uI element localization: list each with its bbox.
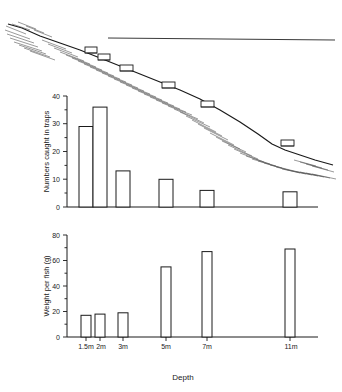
trap-markers bbox=[85, 47, 294, 146]
bar-1.5m bbox=[79, 127, 93, 208]
chart2-ytick-label: 40 bbox=[52, 283, 60, 290]
chart1-ytick-label: 0 bbox=[56, 204, 60, 211]
bar-3m bbox=[118, 313, 128, 337]
chart1-y-axis-title: Numbers caught in traps bbox=[42, 110, 51, 192]
trap-marker bbox=[85, 47, 97, 53]
trap-marker bbox=[98, 54, 110, 60]
bar-11m bbox=[283, 192, 297, 207]
trap-marker bbox=[120, 65, 133, 71]
chart2-xtick-label: 5m bbox=[161, 343, 171, 350]
chart2-y-ticks bbox=[63, 235, 67, 337]
bar-11m bbox=[285, 249, 295, 337]
water-surface-line bbox=[108, 38, 335, 40]
bar-7m bbox=[202, 252, 212, 337]
figure-root: 0 10 20 30 40 Numbers caught in traps bbox=[0, 0, 342, 392]
chart2-bars bbox=[81, 249, 295, 337]
chart2-xtick-label: 7m bbox=[202, 343, 212, 350]
trap-marker bbox=[162, 82, 175, 88]
bar-3m bbox=[116, 171, 130, 207]
chart2-xtick-label: 3m bbox=[118, 343, 128, 350]
bar-2m bbox=[95, 314, 105, 337]
bar-5m bbox=[161, 267, 171, 337]
chart2-y-axis-title: Weight per fish (g) bbox=[42, 255, 51, 317]
weight-per-fish-chart: 0 20 40 60 80 Weight per fish (g) bbox=[42, 232, 318, 383]
chart2-ytick-label: 0 bbox=[56, 334, 60, 341]
chart1-ytick-label: 40 bbox=[52, 93, 60, 100]
sediment-hatching bbox=[5, 22, 336, 179]
x-axis-title: Depth bbox=[172, 373, 193, 382]
chart2-x-ticks bbox=[86, 337, 290, 341]
chart2-xtick-label: 11m bbox=[284, 343, 297, 350]
chart2-xtick-label: 1.5m bbox=[78, 343, 94, 350]
trap-marker bbox=[281, 140, 294, 146]
bar-2m bbox=[93, 107, 107, 207]
chart2-ytick-label: 60 bbox=[52, 257, 60, 264]
lake-bed-profile bbox=[5, 22, 336, 179]
chart2-ytick-label: 80 bbox=[52, 232, 60, 239]
chart1-y-ticks bbox=[63, 96, 67, 207]
chart1-ytick-label: 20 bbox=[52, 148, 60, 155]
bar-5m bbox=[159, 179, 173, 207]
chart1-ytick-label: 30 bbox=[52, 120, 60, 127]
bar-7m bbox=[200, 190, 214, 207]
trap-marker bbox=[201, 101, 214, 107]
chart1-ytick-label: 10 bbox=[52, 176, 60, 183]
bar-1.5m bbox=[81, 315, 91, 337]
chart1-bars bbox=[79, 107, 297, 207]
chart2-ytick-label: 20 bbox=[52, 308, 60, 315]
chart2-xtick-label: 2m bbox=[96, 343, 106, 350]
